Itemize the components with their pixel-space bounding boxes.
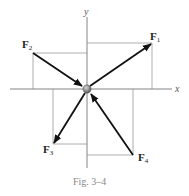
f3-label: F3 [43, 143, 54, 157]
y-axis-label: y [83, 6, 89, 17]
f1-arrow [90, 44, 151, 86]
figure-caption: Fig. 3–4 [73, 176, 106, 187]
f3-arrow [54, 93, 85, 143]
particle [83, 85, 91, 93]
f4-label: F4 [138, 151, 149, 165]
component-guides [33, 43, 152, 155]
force-diagram: x y F1 F2 F3 F4 Fig. 3–4 [0, 0, 189, 196]
f2-label: F2 [22, 38, 33, 52]
axes [10, 17, 172, 168]
x-axis-label: x [174, 83, 180, 94]
f4-arrow [91, 94, 133, 155]
f1-label: F1 [150, 30, 161, 44]
f2-arrow [33, 53, 82, 86]
